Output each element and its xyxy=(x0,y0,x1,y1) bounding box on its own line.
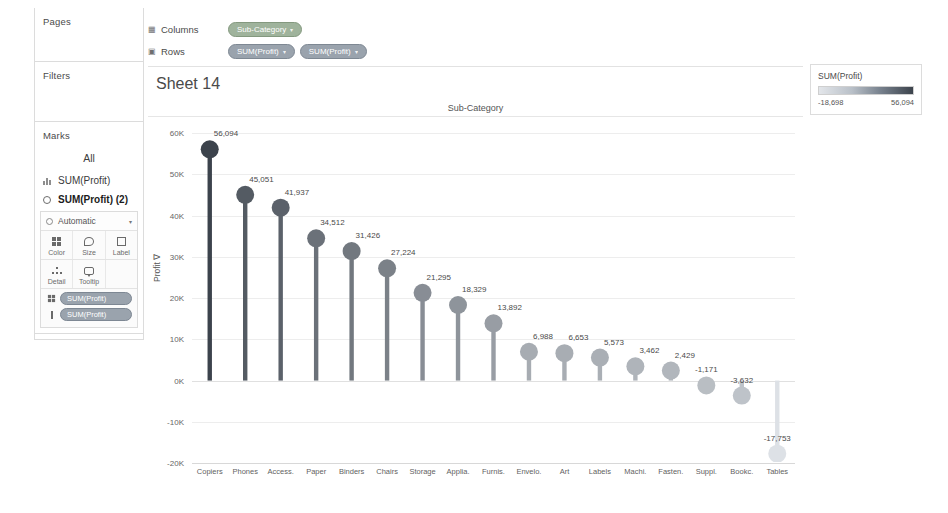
lollipop-stem[interactable] xyxy=(775,381,779,454)
pill-sub-category[interactable]: Sub-Category ▾ xyxy=(228,22,302,37)
lollipop-stem[interactable] xyxy=(349,251,353,381)
lollipop-head[interactable] xyxy=(520,343,538,361)
size-button-label: Size xyxy=(73,249,104,256)
circle-icon xyxy=(42,195,52,205)
x-tick-label[interactable]: Bookc. xyxy=(724,467,759,476)
legend-color-ramp[interactable] xyxy=(818,86,914,95)
bar-chart-icon xyxy=(42,176,52,186)
data-label: 13,892 xyxy=(498,303,523,312)
lollipop-head[interactable] xyxy=(272,199,290,217)
x-tick-label[interactable]: Phones xyxy=(227,467,262,476)
x-tick-label[interactable]: Art xyxy=(547,467,582,476)
column-field-header: Sub-Category xyxy=(148,103,803,117)
rows-dropzone[interactable]: SUM(Profit) ▾ SUM(Profit) ▾ xyxy=(222,44,367,59)
x-tick-label[interactable]: Applia. xyxy=(440,467,475,476)
lollipop-head[interactable] xyxy=(662,362,680,380)
data-label: 27,224 xyxy=(391,248,416,257)
filters-title: Filters xyxy=(35,62,143,87)
lollipop-head[interactable] xyxy=(733,387,751,405)
pages-title: Pages xyxy=(35,8,143,33)
lollipop-head[interactable] xyxy=(768,445,786,462)
data-label: 6,653 xyxy=(568,333,589,342)
columns-dropzone[interactable]: Sub-Category ▾ xyxy=(222,22,302,37)
data-label: 31,426 xyxy=(356,231,381,240)
lollipop-head[interactable] xyxy=(449,296,467,314)
x-axis-line xyxy=(192,463,795,464)
lollipop-stem[interactable] xyxy=(314,238,318,380)
lollipop-head[interactable] xyxy=(485,314,503,332)
lollipop-head[interactable] xyxy=(591,349,609,367)
marks-layer-sum-profit-2[interactable]: SUM(Profit) (2) xyxy=(35,190,143,209)
plot-area: Profit ∇ 60K50K40K30K20K10K0K-10K-20K 56… xyxy=(148,117,803,487)
data-label: 34,512 xyxy=(320,218,345,227)
marks-title: Marks xyxy=(35,122,143,147)
lollipop-head[interactable] xyxy=(343,242,361,260)
lollipop-head[interactable] xyxy=(378,259,396,277)
mark-type-value: Automatic xyxy=(58,216,124,226)
detail-button[interactable]: Detail xyxy=(41,260,73,288)
color-button[interactable]: Color xyxy=(41,231,73,259)
page-title: Sheet 14 xyxy=(148,67,803,93)
x-tick-label[interactable]: Binders xyxy=(334,467,369,476)
lollipop-head[interactable] xyxy=(626,357,644,375)
label-button[interactable]: Label xyxy=(106,231,137,259)
lollipop-chart: 56,09445,05141,93734,51231,42627,22421,2… xyxy=(148,117,803,462)
lollipop-stem[interactable] xyxy=(420,293,424,381)
tableau-worksheet: Pages Filters Marks All SUM(Profit) SUM(… xyxy=(0,0,948,513)
pill-sum-profit-1-label: SUM(Profit) xyxy=(237,47,279,56)
marks-pill-color-label: SUM(Profit) xyxy=(67,294,106,303)
lollipop-head[interactable] xyxy=(697,376,715,394)
pages-card: Pages xyxy=(35,8,143,62)
x-tick-label[interactable]: Labels xyxy=(582,467,617,476)
lollipop-stem[interactable] xyxy=(385,268,389,380)
x-tick-label[interactable]: Fasten. xyxy=(653,467,688,476)
filters-card: Filters xyxy=(35,62,143,122)
pages-dropzone[interactable] xyxy=(35,33,143,61)
rows-icon: ▣ xyxy=(148,47,156,56)
data-label: 6,988 xyxy=(533,332,554,341)
x-tick-label[interactable]: Paper xyxy=(298,467,333,476)
x-tick-label[interactable]: Tables xyxy=(760,467,795,476)
lollipop-stem[interactable] xyxy=(278,208,282,381)
marks-pill-label[interactable]: SUM(Profit) xyxy=(60,308,132,321)
x-tick-label[interactable]: Furnis. xyxy=(476,467,511,476)
lollipop-stem[interactable] xyxy=(243,195,247,381)
data-label: -3,632 xyxy=(730,376,753,385)
x-tick-label[interactable]: Chairs xyxy=(369,467,404,476)
x-tick-label[interactable]: Envelo. xyxy=(511,467,546,476)
x-tick-label[interactable]: Copiers xyxy=(192,467,227,476)
color-palette-icon xyxy=(47,294,56,303)
lollipop-head[interactable] xyxy=(414,284,432,302)
x-axis-labels: CopiersPhonesAccess.PaperBindersChairsSt… xyxy=(192,467,795,476)
pill-sum-profit-2[interactable]: SUM(Profit) ▾ xyxy=(300,44,367,59)
pill-sum-profit-1[interactable]: SUM(Profit) ▾ xyxy=(228,44,295,59)
size-button[interactable]: Size xyxy=(73,231,105,259)
marks-layer-label: SUM(Profit) (2) xyxy=(58,194,128,205)
lollipop-head[interactable] xyxy=(555,344,573,362)
marks-pill-color[interactable]: SUM(Profit) xyxy=(60,292,132,305)
mark-type-dropdown[interactable]: Automatic ▾ xyxy=(41,212,137,231)
x-tick-label[interactable]: Access. xyxy=(263,467,298,476)
legend-max-value: 56,094 xyxy=(891,98,914,107)
marks-all-layer[interactable]: All xyxy=(35,147,143,171)
x-tick-label[interactable]: Storage xyxy=(405,467,440,476)
tooltip-button[interactable]: Tooltip xyxy=(73,260,105,288)
columns-shelf[interactable]: ▦ Columns Sub-Category ▾ xyxy=(148,18,803,40)
lollipop-stem[interactable] xyxy=(456,305,460,381)
filters-dropzone[interactable] xyxy=(35,87,143,121)
lollipop-head[interactable] xyxy=(307,229,325,247)
rows-shelf[interactable]: ▣ Rows SUM(Profit) ▾ SUM(Profit) ▾ xyxy=(148,40,803,62)
lollipop-head[interactable] xyxy=(201,140,219,158)
lollipop-stem[interactable] xyxy=(208,149,212,380)
label-button-label: Label xyxy=(106,249,137,256)
circle-icon xyxy=(46,218,53,225)
chevron-down-icon: ▾ xyxy=(129,218,132,225)
marks-layer-sum-profit[interactable]: SUM(Profit) xyxy=(35,171,143,190)
marks-button-row-1: Color Size Label xyxy=(41,231,137,260)
x-tick-label[interactable]: Machi. xyxy=(618,467,653,476)
lollipop-head[interactable] xyxy=(236,186,254,204)
x-tick-label[interactable]: Suppl. xyxy=(689,467,724,476)
rows-label-text: Rows xyxy=(161,46,185,57)
columns-shelf-label: ▦ Columns xyxy=(148,24,222,35)
detail-button-label: Detail xyxy=(41,278,72,285)
